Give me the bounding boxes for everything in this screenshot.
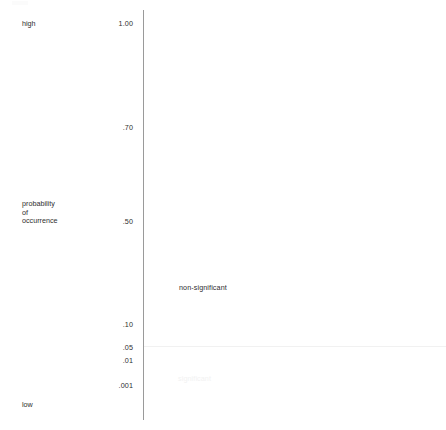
axis-tick-05: .05 (123, 343, 133, 352)
axis-tick-10: .10 (123, 320, 133, 329)
crop-artifact (12, 1, 28, 5)
probability-scale-chart: high low probability of occurrence 1.00 … (0, 0, 446, 430)
probability-axis-line (143, 10, 144, 420)
axis-tick-50: .50 (123, 217, 133, 226)
axis-tick-70: .70 (123, 123, 133, 132)
axis-title: probability of occurrence (22, 200, 58, 226)
axis-tick-001: .001 (119, 381, 133, 390)
axis-endpoint-low: low (22, 400, 33, 409)
axis-tick-1-00: 1.00 (119, 19, 133, 28)
region-label-significant: significant (178, 374, 211, 383)
axis-title-line-3: occurrence (22, 217, 58, 226)
region-label-non-significant: non-significant (179, 283, 227, 292)
axis-tick-01: .01 (123, 356, 133, 365)
significance-threshold-rule (144, 346, 446, 347)
axis-endpoint-high: high (22, 19, 36, 28)
